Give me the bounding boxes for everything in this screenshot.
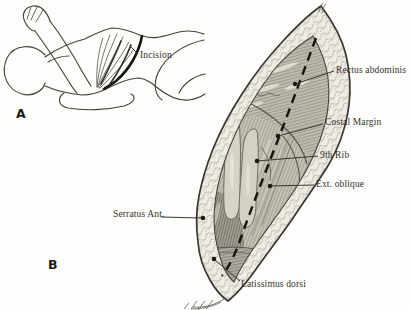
hip-crease — [179, 74, 205, 93]
capsule-highlight-2 — [246, 164, 250, 196]
label-serratus-ant: Serratus Ant. — [113, 210, 165, 220]
dot-ninth-rib — [255, 159, 260, 164]
panel-letter-b: B — [48, 259, 58, 272]
label-ext-oblique: Ext. oblique — [316, 180, 364, 190]
label-incision: Incision — [140, 51, 172, 61]
label-latissimus-dorsi: Latissimus dorsi — [241, 280, 306, 290]
dot-costal-margin — [276, 134, 281, 139]
dot-rectus — [293, 82, 298, 87]
dot-latissimus — [212, 257, 217, 262]
back-right-outline — [143, 31, 204, 37]
raised-arm-line-1 — [50, 21, 91, 86]
capsule-highlight-1 — [230, 152, 234, 188]
patient-position-drawing — [4, 6, 205, 110]
neck-line — [48, 56, 69, 62]
dot-serratus — [201, 216, 206, 221]
label-ninth-rib: 9th Rib — [320, 151, 349, 161]
figure-thoracoabdominal-incision: Incision Rectus abdominis Costal Margin … — [0, 0, 410, 310]
bottom-tail-scribbles — [184, 299, 224, 310]
raised-arm-line-2 — [35, 31, 77, 93]
panel-letter-a: A — [16, 108, 26, 121]
dot-ext-oblique — [268, 184, 273, 189]
label-costal-margin: Costal Margin — [325, 118, 381, 128]
support-roll — [59, 93, 134, 110]
head-outline — [4, 47, 45, 95]
finger-lines — [27, 7, 43, 22]
label-rectus-abdominis: Rectus abdominis — [336, 66, 406, 76]
